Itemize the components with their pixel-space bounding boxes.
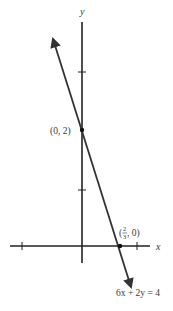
svg-text:(: (: [119, 228, 122, 239]
svg-text:, 0): , 0): [127, 228, 140, 239]
axis-ticks: [22, 72, 137, 250]
y-axis-label: y: [79, 6, 85, 17]
x-intercept-label: ( 2 3 , 0): [119, 225, 140, 240]
svg-text:3: 3: [123, 233, 126, 240]
equation-label: 6x + 2y = 4: [116, 288, 160, 298]
point-x-intercept: [118, 244, 122, 248]
svg-text:2: 2: [123, 225, 126, 232]
equation-line: [53, 39, 131, 287]
point-y-intercept: [80, 128, 84, 132]
graph: y x (0, 2) ( 2 3 , 0) 6x + 2y = 4: [0, 0, 173, 311]
y-intercept-label: (0, 2): [50, 126, 71, 137]
x-axis-label: x: [155, 241, 161, 252]
